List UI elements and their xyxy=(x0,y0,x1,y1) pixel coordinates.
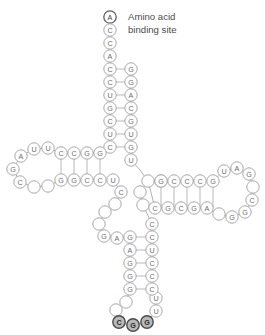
nucleotide-c: C xyxy=(181,175,193,187)
nucleotide-a: A xyxy=(124,244,136,256)
nucleotide-label: G xyxy=(210,177,216,186)
nucleotide-layer: ACCACCUGCUCGGACGUGUAUUCCGGGCGGCCUCGAGAGG… xyxy=(7,11,259,331)
nucleotide-label: C xyxy=(17,178,22,187)
nucleotide-g: G xyxy=(104,102,116,114)
nucleotide-u: U xyxy=(218,165,230,177)
nucleotide-g: G xyxy=(94,147,106,159)
nucleotide-u: U xyxy=(104,89,116,101)
nucleotide-label: G xyxy=(107,104,113,113)
nucleotide-g: G xyxy=(124,270,136,282)
nucleotide-label: U xyxy=(31,145,36,154)
nucleotide-label: G xyxy=(128,65,134,74)
nucleotide-g: G xyxy=(125,76,137,88)
nucleotide-label: C xyxy=(118,188,123,197)
nucleotide-label: G xyxy=(71,176,77,185)
nucleotide-c: C xyxy=(81,174,93,186)
nucleotide-label: G xyxy=(128,117,134,126)
nucleotide-a: A xyxy=(104,11,116,23)
nucleotide-circle xyxy=(28,181,40,193)
nucleotide-g: G xyxy=(162,202,174,214)
nucleotide-label: A xyxy=(115,234,120,243)
nucleotide-g: G xyxy=(124,231,136,243)
trna-diagram: ACCACCUGCUCGGACGUGUAUUCCGGGCGGCCUCGAGAGG… xyxy=(0,0,265,335)
nucleotide-label: G xyxy=(130,321,136,330)
nucleotide-label: C xyxy=(116,318,121,327)
nucleotide-g: G xyxy=(125,141,137,153)
nucleotide-c: C xyxy=(104,24,116,36)
nucleotide-label: C xyxy=(107,117,112,126)
nucleotide-label: G xyxy=(97,149,103,158)
nucleotide-u: U xyxy=(125,128,137,140)
nucleotide-label: C xyxy=(128,104,133,113)
nucleotide-label: G xyxy=(127,285,133,294)
nucleotide-label: C xyxy=(107,143,112,152)
nucleotide-u: U xyxy=(150,305,162,317)
nucleotide-circle xyxy=(247,181,259,193)
nucleotide-label: C xyxy=(84,176,89,185)
nucleotide-circle xyxy=(99,206,111,218)
nucleotide-a: A xyxy=(231,162,243,174)
nucleotide-c: C xyxy=(104,115,116,127)
nucleotide-label: C xyxy=(152,204,157,213)
nucleotide-c: C xyxy=(146,218,158,230)
nucleotide-c: C xyxy=(104,37,116,49)
nucleotide-label: G xyxy=(165,204,171,213)
nucleotide-label: G xyxy=(127,272,133,281)
nucleotide-label: G xyxy=(101,232,107,241)
nucleotide-label: C xyxy=(184,177,189,186)
nucleotide-circle xyxy=(213,208,225,220)
nucleotide-c: C xyxy=(94,174,106,186)
nucleotide-c: C xyxy=(146,257,158,269)
nucleotide-label: C xyxy=(149,259,154,268)
nucleotide-label: C xyxy=(249,196,254,205)
nucleotide-label: U xyxy=(45,144,50,153)
nucleotide-label: C xyxy=(97,176,102,185)
nucleotide-g: G xyxy=(68,174,80,186)
nucleotide-unlabeled xyxy=(134,186,146,198)
nucleotide-unlabeled xyxy=(109,198,121,210)
nucleotide-c: C xyxy=(14,176,26,188)
nucleotide-u: U xyxy=(125,154,137,166)
nucleotide-label: G xyxy=(128,78,134,87)
nucleotide-a: A xyxy=(201,202,213,214)
nucleotide-unlabeled xyxy=(120,296,132,308)
nucleotide-g: G xyxy=(243,168,255,180)
nucleotide-unlabeled xyxy=(42,180,54,192)
nucleotide-u: U xyxy=(28,143,40,155)
nucleotide-g: G xyxy=(239,206,251,218)
nucleotide-circle xyxy=(137,199,149,211)
trna-svg-canvas: ACCACCUGCUCGGACGUGUAUUCCGGGCGGCCUCGAGAGG… xyxy=(0,0,265,335)
nucleotide-c: C xyxy=(175,202,187,214)
nucleotide-label: G xyxy=(128,143,134,152)
nucleotide-g: G xyxy=(125,63,137,75)
nucleotide-circle xyxy=(93,218,105,230)
nucleotide-g: G xyxy=(207,175,219,187)
nucleotide-c: C xyxy=(194,175,206,187)
nucleotide-label: U xyxy=(107,91,112,100)
nucleotide-label: U xyxy=(153,307,158,316)
nucleotide-unlabeled xyxy=(28,181,40,193)
nucleotide-a: A xyxy=(104,50,116,62)
nucleotide-label: G xyxy=(127,233,133,242)
nucleotide-label: C xyxy=(107,39,112,48)
nucleotide-circle xyxy=(134,186,146,198)
nucleotide-c: C xyxy=(149,202,161,214)
nucleotide-label: C xyxy=(107,26,112,35)
nucleotide-label: G xyxy=(10,165,16,174)
nucleotide-a: A xyxy=(111,232,123,244)
nucleotide-u: U xyxy=(104,128,116,140)
annotation-line-1: Amino acid xyxy=(128,11,177,24)
nucleotide-g: G xyxy=(188,202,200,214)
nucleotide-g: G xyxy=(127,319,139,331)
nucleotide-c: C xyxy=(146,283,158,295)
backbone-chain xyxy=(13,148,130,238)
nucleotide-g: G xyxy=(155,175,167,187)
nucleotide-label: U xyxy=(110,176,115,185)
nucleotide-c: C xyxy=(168,175,180,187)
nucleotide-c: C xyxy=(104,76,116,88)
nucleotide-label: C xyxy=(149,233,154,242)
nucleotide-c: C xyxy=(55,147,67,159)
nucleotide-label: A xyxy=(129,91,134,100)
amino-acid-binding-site-label: Amino acid binding site xyxy=(128,11,177,36)
nucleotide-label: U xyxy=(149,246,154,255)
